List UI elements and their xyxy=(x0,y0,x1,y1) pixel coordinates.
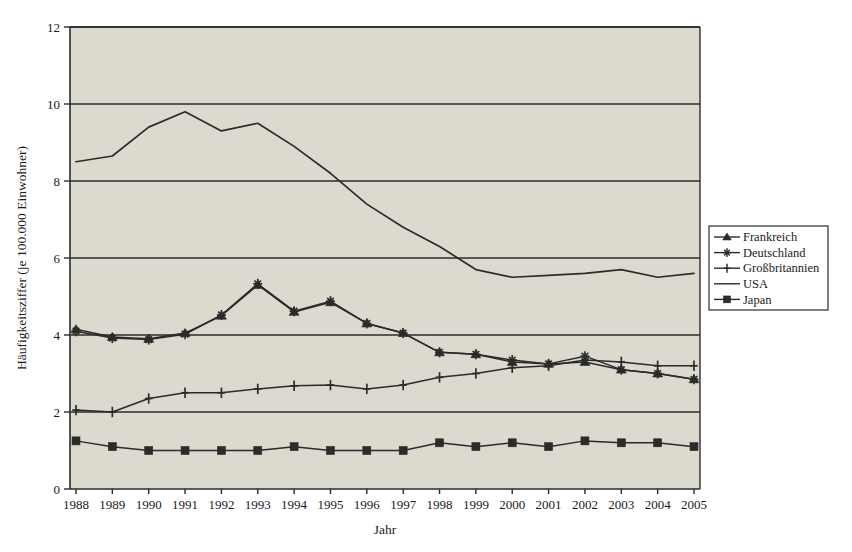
x-tick-label: 1997 xyxy=(390,497,417,512)
x-tick-label: 2003 xyxy=(608,497,634,512)
square-marker xyxy=(399,447,407,455)
y-tick-label: 6 xyxy=(54,251,61,266)
chart-figure: 024681012 198819891990199119921993199419… xyxy=(0,0,852,552)
square-marker xyxy=(290,443,298,451)
legend-label: Großbritannien xyxy=(743,261,820,275)
square-marker xyxy=(581,437,589,445)
y-tick-label: 0 xyxy=(54,482,61,497)
x-tick-label: 1996 xyxy=(354,497,381,512)
legend-label: Frankreich xyxy=(743,230,798,244)
y-axis-title: Häufigkeitsziffer (je 100.000 Einwohner) xyxy=(14,146,29,370)
square-marker xyxy=(217,447,225,455)
x-tick-label: 2002 xyxy=(572,497,598,512)
x-tick-label: 1992 xyxy=(208,497,234,512)
square-marker xyxy=(181,447,189,455)
legend: FrankreichDeutschlandGroßbritannienUSAJa… xyxy=(709,226,828,310)
x-tick-label: 1990 xyxy=(136,497,162,512)
x-tick-label: 2000 xyxy=(499,497,525,512)
y-tick-label: 4 xyxy=(54,328,61,343)
y-tick-label: 2 xyxy=(54,405,61,420)
x-tick-label: 2001 xyxy=(536,497,562,512)
x-tick-label: 1989 xyxy=(99,497,125,512)
y-tick-label: 12 xyxy=(47,20,60,35)
x-tick-label: 1994 xyxy=(281,497,308,512)
square-marker xyxy=(617,439,625,447)
square-marker xyxy=(436,439,444,447)
x-tick-label: 1998 xyxy=(427,497,453,512)
square-marker xyxy=(654,439,662,447)
square-marker xyxy=(545,443,553,451)
square-marker xyxy=(690,443,698,451)
square-marker xyxy=(363,447,371,455)
square-marker xyxy=(472,443,480,451)
square-marker xyxy=(254,447,262,455)
x-tick-label: 1988 xyxy=(63,497,89,512)
x-tick-label: 1999 xyxy=(463,497,489,512)
square-marker xyxy=(508,439,516,447)
square-marker xyxy=(108,443,116,451)
y-tick-label: 10 xyxy=(47,97,60,112)
legend-label: USA xyxy=(743,277,768,291)
legend-label: Japan xyxy=(743,293,772,307)
x-tick-label: 1991 xyxy=(172,497,198,512)
x-axis-title: Jahr xyxy=(374,522,397,537)
line-chart: 024681012 198819891990199119921993199419… xyxy=(0,0,852,552)
x-tick-label: 2004 xyxy=(645,497,672,512)
x-tick-label: 1993 xyxy=(245,497,271,512)
square-marker xyxy=(724,296,731,303)
square-marker xyxy=(72,437,80,445)
y-tick-label: 8 xyxy=(54,174,61,189)
x-tick-label: 1995 xyxy=(317,497,343,512)
x-tick-label: 2005 xyxy=(681,497,707,512)
legend-label: Deutschland xyxy=(743,246,806,260)
square-marker xyxy=(326,447,334,455)
square-marker xyxy=(145,447,153,455)
